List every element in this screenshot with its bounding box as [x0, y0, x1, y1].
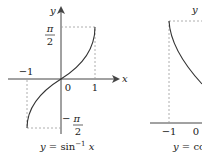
inverse-trig-graphs: y x π 2 −1 0 1 − π 2 y = sin−1 x y −1 0 … — [0, 0, 202, 159]
pi-half-denominator: 2 — [47, 36, 53, 47]
arccos-curve — [169, 21, 202, 84]
y-axis-label: y — [191, 4, 198, 15]
tick-zero: 0 — [65, 82, 71, 93]
neg-pi-half-denominator: 2 — [75, 126, 81, 137]
tick-one: 1 — [92, 82, 98, 93]
tick-zero: 0 — [193, 126, 199, 137]
neg-pi-half-numerator: − π — [62, 113, 81, 124]
y-axis-label: y — [49, 5, 56, 16]
dashed-guide-top — [61, 27, 95, 79]
x-axis-label: x — [122, 73, 128, 84]
arccos-graph: y −1 0 y = co — [150, 4, 202, 152]
dashed-guide-bottom — [27, 79, 61, 128]
arcsin-caption: y = sin−1 x — [39, 140, 95, 152]
arcsin-graph: y x π 2 −1 0 1 − π 2 y = sin−1 x — [8, 5, 128, 152]
tick-neg-one: −1 — [162, 126, 177, 137]
arccos-caption: y = co — [172, 141, 202, 152]
pi-half-numerator: π — [46, 23, 54, 34]
tick-neg-one: −1 — [19, 66, 34, 77]
